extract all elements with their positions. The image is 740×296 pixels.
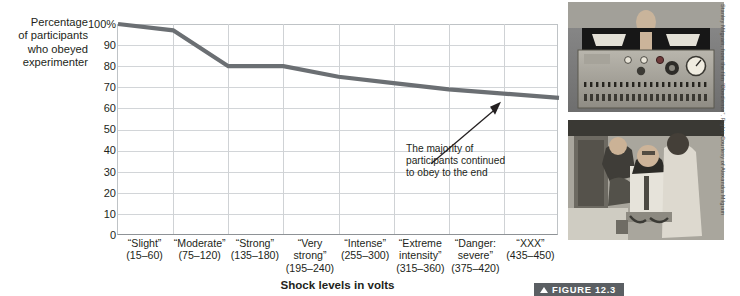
- figure-milgram-obedience: Percentage of participants who obeyed ex…: [0, 0, 740, 296]
- figure-caption-tab: FIGURE 12.3: [534, 283, 624, 296]
- x-category-very-strong-line-3: (195–240): [271, 262, 349, 274]
- obedience-line-series: [118, 24, 559, 98]
- annotation-line-2: participants continued: [406, 155, 534, 167]
- triangle-up-icon: [540, 287, 548, 293]
- y-axis-title-line-2: of participants: [0, 29, 88, 42]
- photo-learner-strapped-in-chair: [568, 120, 724, 240]
- photo-credit: Stanley Milgram, from the film “Obedienc…: [719, 4, 726, 236]
- y-tick-20: 20: [88, 188, 116, 199]
- photo-bottom-illustration: [568, 120, 724, 240]
- y-axis-title-line-1: Percentage: [0, 16, 88, 29]
- y-tick-30: 30: [88, 167, 116, 178]
- x-category-xxx-line-1: “XXX”: [492, 237, 570, 249]
- annotation-line-1: The majority of: [406, 143, 534, 155]
- figure-caption-label: FIGURE 12.3: [552, 284, 616, 295]
- photo-column: [568, 2, 724, 240]
- y-tick-10: 10: [88, 209, 116, 220]
- y-tick-90: 90: [88, 40, 116, 51]
- photo-experimenter-at-shock-generator: [568, 2, 724, 112]
- y-tick-60: 60: [88, 103, 116, 114]
- x-category-xxx-line-2: (435–450): [492, 249, 570, 261]
- x-axis-title: Shock levels in volts: [117, 278, 558, 291]
- photo-top-illustration: [568, 2, 724, 112]
- y-axis-title-line-4: experimenter: [0, 56, 88, 69]
- series-line-svg: [118, 24, 559, 235]
- y-tick-40: 40: [88, 145, 116, 156]
- y-axis-title: Percentage of participants who obeyed ex…: [0, 16, 88, 70]
- y-tick-50: 50: [88, 124, 116, 135]
- y-axis-title-line-3: who obeyed: [0, 43, 88, 56]
- annotation-line-3: to obey to the end: [406, 167, 534, 179]
- x-category-xxx: “XXX” (435–450): [492, 237, 570, 262]
- plot-area: [117, 24, 558, 235]
- y-tick-70: 70: [88, 82, 116, 93]
- y-tick-100: 100%: [88, 19, 116, 30]
- x-category-danger-severe-line-3: (375–420): [436, 262, 514, 274]
- y-tick-80: 80: [88, 61, 116, 72]
- annotation-text: The majority of participants continued t…: [406, 143, 534, 180]
